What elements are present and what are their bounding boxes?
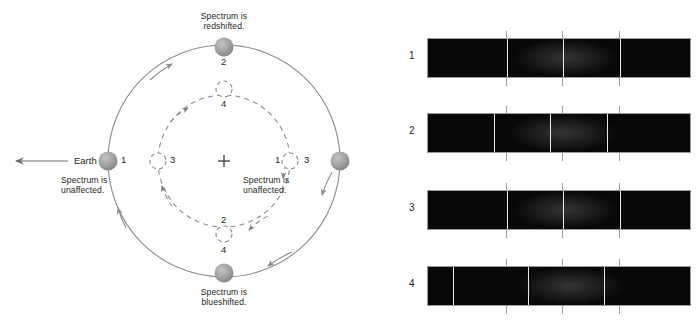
- orbit-diagram-graphics: [0, 0, 400, 328]
- center-of-mass-marker: [218, 155, 230, 167]
- spectrum-strip: [427, 113, 691, 153]
- spectral-line: [620, 39, 621, 77]
- star-body-inner-right: [282, 153, 298, 169]
- spectrum-strip: [427, 266, 691, 306]
- reference-tick: [619, 306, 620, 314]
- reference-tick: [506, 78, 507, 86]
- spectral-line: [563, 39, 564, 77]
- spectral-line: [563, 191, 564, 229]
- spectral-line: [607, 114, 608, 152]
- earth-label: Earth: [74, 155, 97, 166]
- reference-tick: [506, 230, 507, 238]
- spectrum-row-label: 4: [409, 278, 415, 289]
- caption-unaffected-right: Spectrum is unaffected.: [243, 176, 333, 195]
- spectral-line: [507, 191, 508, 229]
- spectra-panel: 1 2: [400, 0, 700, 328]
- spectrum-row-label: 2: [409, 125, 415, 136]
- spectrum-row-label: 1: [409, 50, 415, 61]
- reference-tick: [562, 306, 563, 314]
- caption-blueshifted: Spectrum is blueshifted.: [178, 288, 270, 307]
- reference-tick: [506, 306, 507, 314]
- outer-orbit-arrow-topleft: [150, 64, 172, 80]
- spectral-line: [453, 267, 454, 305]
- reference-tick: [562, 153, 563, 161]
- spectrum-strip: [427, 190, 691, 230]
- figure-canvas: 2 4 1 3 1 3 2 4 Spectrum is redshifted. …: [0, 0, 700, 328]
- position-label-inner-top: 4: [221, 99, 226, 109]
- caption-unaffected-left: Spectrum is unaffected.: [61, 176, 151, 195]
- outer-orbit-arrow-bottomright: [268, 252, 292, 266]
- position-label-outer-bottom: 4: [221, 245, 226, 255]
- spectral-line: [528, 267, 529, 305]
- reference-tick: [562, 78, 563, 86]
- position-label-inner-bottom: 2: [221, 215, 226, 225]
- orbit-diagram: 2 4 1 3 1 3 2 4 Spectrum is redshifted. …: [0, 0, 400, 328]
- caption-redshifted: Spectrum is redshifted.: [178, 12, 270, 31]
- star-body-outer-right: [331, 152, 350, 171]
- position-label-inner-left: 3: [170, 155, 175, 165]
- reference-tick: [619, 78, 620, 86]
- position-label-inner-right: 1: [275, 155, 280, 165]
- inner-orbit-arrow-bottomright: [249, 216, 268, 230]
- position-label-outer-right: 3: [304, 155, 309, 165]
- reference-tick: [562, 230, 563, 238]
- spectrum-strip: [427, 38, 691, 78]
- reference-tick: [506, 153, 507, 161]
- spectral-line: [620, 191, 621, 229]
- star-body-outer-top: [215, 38, 234, 57]
- reference-tick: [619, 230, 620, 238]
- spectrum-row-label: 3: [409, 202, 415, 213]
- outer-orbit-arrow-bottomleft: [118, 208, 126, 228]
- position-label-outer-left: 1: [121, 155, 126, 165]
- position-label-outer-top: 2: [221, 57, 226, 67]
- reference-tick: [619, 153, 620, 161]
- star-body-inner-top: [216, 81, 232, 97]
- spectral-line: [550, 114, 551, 152]
- spectral-line: [507, 39, 508, 77]
- star-body-inner-bottom: [216, 226, 232, 242]
- spectral-line: [604, 267, 605, 305]
- star-body-inner-left: [150, 153, 166, 169]
- spectral-line: [494, 114, 495, 152]
- inner-orbit-arrow-topleft: [170, 108, 188, 122]
- star-body-outer-left: [99, 152, 118, 171]
- star-body-outer-bottom: [215, 264, 234, 283]
- inner-orbit-arrow-bottomleft: [162, 186, 172, 206]
